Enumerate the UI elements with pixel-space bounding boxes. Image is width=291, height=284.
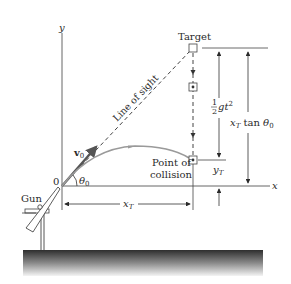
x-axis-label: x bbox=[272, 180, 278, 191]
collision-label-line2: collision bbox=[150, 169, 193, 180]
velocity-label: v0 bbox=[73, 147, 84, 160]
svg-text:1: 1 bbox=[212, 98, 217, 107]
target-box bbox=[189, 44, 197, 52]
gun-label: Gun bbox=[21, 193, 42, 204]
line-of-sight-label: Line of sight bbox=[111, 72, 161, 123]
xT-tan-theta-label: xT tan θ0 bbox=[230, 117, 274, 130]
origin-label: 0 bbox=[53, 176, 59, 187]
yT-label: yT bbox=[212, 164, 225, 177]
projectile-diagram: y x 0 Target Line of sight v0 θ0 Gun Poi… bbox=[0, 0, 291, 284]
y-axis-label: y bbox=[58, 22, 65, 33]
angle-arc bbox=[73, 175, 77, 186]
ground bbox=[23, 250, 263, 276]
svg-text:gt2: gt2 bbox=[218, 100, 233, 112]
gun-stand bbox=[22, 209, 49, 250]
target-label: Target bbox=[178, 31, 211, 42]
half-gt2-label: 1 2 gt2 bbox=[211, 98, 233, 116]
xT-label: xT bbox=[123, 198, 135, 211]
svg-text:2: 2 bbox=[212, 107, 217, 116]
collision-label-line1: Point of bbox=[152, 157, 192, 168]
